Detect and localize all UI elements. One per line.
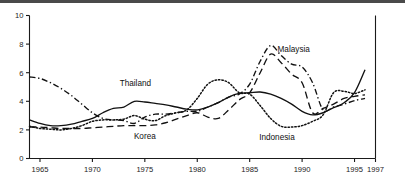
series-line-korea: [30, 54, 366, 129]
series-labels-group: Thailand Korea Malaysia Indonesia: [120, 45, 311, 142]
y-tick-label: 0: [19, 154, 23, 163]
y-tick-label: 4: [19, 97, 23, 106]
y-tick-label: 2: [19, 126, 23, 135]
x-axis-ticks: 19651970197519801985199019951997: [32, 159, 384, 174]
series-label-thailand: Thailand: [120, 79, 152, 88]
x-tick-label: 1975: [136, 165, 153, 174]
x-tick-label: 1990: [294, 165, 311, 174]
axes-group: 0246810 19651970197519801985199019951997: [15, 11, 384, 173]
chart-canvas: 0246810 19651970197519801985199019951997…: [0, 3, 405, 196]
x-tick-label: 1980: [189, 165, 206, 174]
series-label-malaysia: Malaysia: [278, 45, 311, 54]
series-label-indonesia: Indonesia: [259, 133, 295, 142]
line-chart-figure: 0246810 19651970197519801985199019951997…: [0, 3, 405, 196]
y-tick-label: 8: [19, 40, 23, 49]
x-tick-label: 1985: [241, 165, 258, 174]
x-tick-label: 1965: [32, 165, 49, 174]
series-line-malaysia: [30, 45, 366, 123]
series-lines-group: [30, 45, 366, 129]
y-tick-label: 6: [19, 69, 23, 78]
series-label-korea: Korea: [134, 132, 156, 141]
y-tick-label: 10: [15, 11, 23, 20]
axis-frame: [30, 16, 376, 159]
y-axis-ticks: 0246810: [15, 11, 29, 163]
x-tick-label: 1997: [367, 165, 384, 174]
x-tick-label: 1970: [84, 165, 101, 174]
x-tick-label: 1995: [346, 165, 363, 174]
